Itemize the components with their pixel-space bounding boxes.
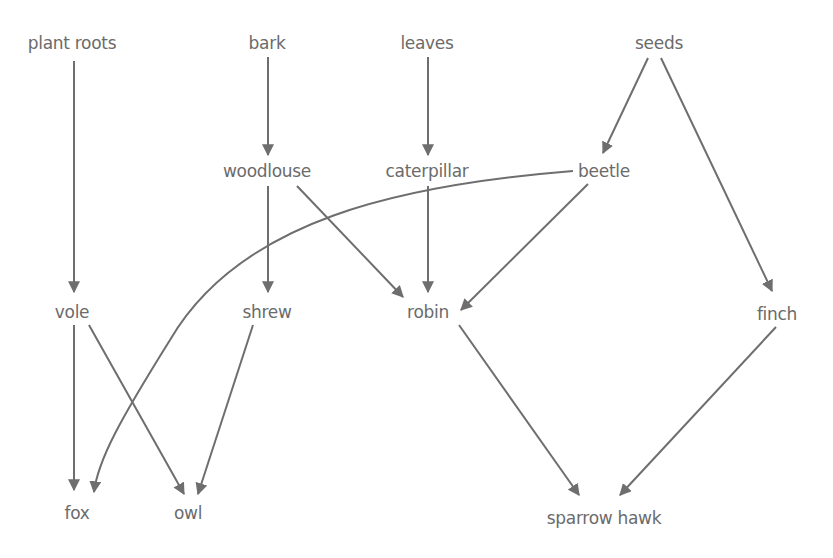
food-web-diagram: plant roots bark leaves seeds woodlouse …	[0, 0, 833, 558]
edge-seeds-to-beetle	[603, 58, 648, 153]
node-woodlouse: woodlouse	[223, 161, 311, 181]
node-finch: finch	[757, 304, 797, 324]
node-beetle: beetle	[578, 161, 630, 181]
node-bark: bark	[249, 33, 286, 53]
node-caterpillar: caterpillar	[386, 161, 469, 181]
node-vole: vole	[55, 302, 89, 322]
edge-finch-to-sparrow-hawk	[620, 327, 776, 495]
edges	[74, 57, 776, 495]
node-owl: owl	[174, 503, 202, 523]
node-robin: robin	[407, 302, 449, 322]
edge-beetle-to-fox	[94, 171, 573, 492]
node-seeds: seeds	[635, 33, 683, 53]
edge-seeds-to-finch	[661, 58, 772, 291]
node-leaves: leaves	[400, 33, 454, 53]
nodes: plant roots bark leaves seeds woodlouse …	[28, 33, 797, 528]
node-plant-roots: plant roots	[28, 33, 117, 53]
node-shrew: shrew	[242, 302, 292, 322]
node-sparrow-hawk: sparrow hawk	[547, 508, 662, 528]
edge-vole-to-owl	[89, 325, 184, 494]
edge-woodlouse-to-robin	[297, 186, 403, 297]
node-fox: fox	[64, 503, 89, 523]
edge-beetle-to-robin	[461, 184, 588, 310]
edge-shrew-to-owl	[198, 325, 253, 494]
edge-robin-to-sparrow-hawk	[459, 325, 579, 495]
